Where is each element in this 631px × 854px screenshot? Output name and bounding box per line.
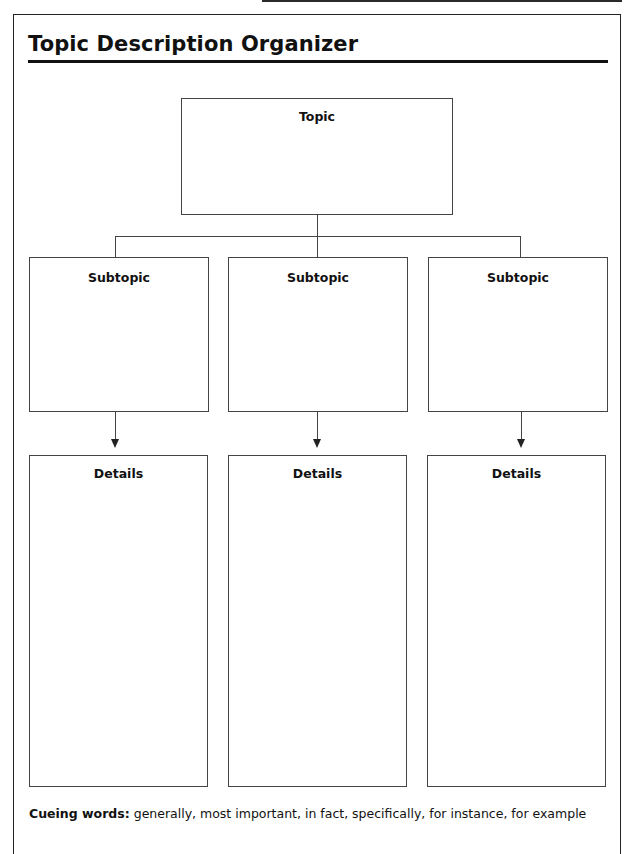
arrow-shaft-1 [115, 412, 116, 442]
arrow-down-icon [111, 439, 119, 448]
details-box-3[interactable]: Details [427, 455, 606, 787]
subtopic-label: Subtopic [229, 270, 407, 285]
top-rule [262, 0, 622, 2]
topic-label: Topic [182, 109, 452, 124]
arrow-shaft-2 [317, 412, 318, 442]
title-underline [28, 60, 608, 63]
arrow-down-icon [517, 439, 525, 448]
details-box-1[interactable]: Details [29, 455, 208, 787]
arrow-down-icon [313, 439, 321, 448]
connector-right-drop [520, 236, 521, 257]
connector-horizontal [115, 236, 521, 237]
details-label: Details [30, 466, 207, 481]
subtopic-label: Subtopic [429, 270, 607, 285]
details-label: Details [229, 466, 406, 481]
cueing-words: Cueing words: generally, most important,… [29, 806, 586, 821]
page-title: Topic Description Organizer [28, 31, 358, 57]
subtopic-box-3[interactable]: Subtopic [428, 257, 608, 412]
details-label: Details [428, 466, 605, 481]
topic-box[interactable]: Topic [181, 98, 453, 215]
arrow-shaft-3 [521, 412, 522, 442]
connector-left-drop [115, 236, 116, 257]
details-box-2[interactable]: Details [228, 455, 407, 787]
cueing-words-text: generally, most important, in fact, spec… [130, 806, 587, 821]
subtopic-box-1[interactable]: Subtopic [29, 257, 209, 412]
cueing-words-label: Cueing words: [29, 806, 130, 821]
subtopic-label: Subtopic [30, 270, 208, 285]
subtopic-box-2[interactable]: Subtopic [228, 257, 408, 412]
